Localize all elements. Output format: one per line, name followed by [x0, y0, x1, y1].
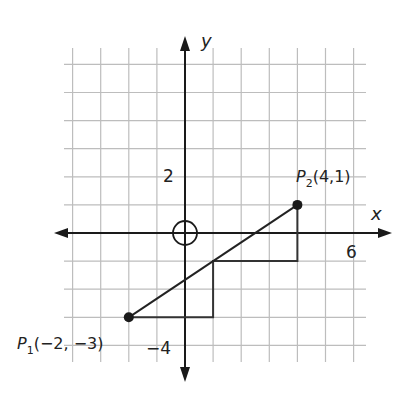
tick-label-y-neg4: −4 [146, 338, 171, 358]
y-axis-label: y [200, 30, 212, 51]
x-axis-label: x [370, 203, 382, 224]
coordinate-plane: x y 6 2 −4 P2(4,1) P1(−2, −3) [0, 0, 402, 402]
y-axis-arrow-down-icon [180, 367, 190, 382]
x-axis-arrow-right-icon [378, 228, 392, 238]
label-p2: P2(4,1) [296, 167, 351, 190]
tick-label-x-6: 6 [346, 242, 357, 262]
point-p2 [292, 200, 302, 210]
label-p1: P1(−2, −3) [17, 334, 103, 357]
tick-label-y-2: 2 [163, 166, 174, 186]
x-axis-arrow-left-icon [54, 228, 68, 238]
grid [64, 48, 366, 362]
y-axis-arrow-up-icon [180, 36, 190, 51]
point-p1 [124, 312, 134, 322]
